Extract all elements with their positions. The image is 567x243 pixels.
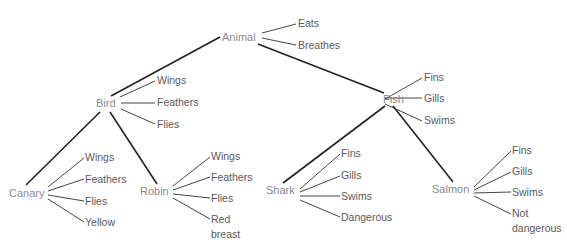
property-robin-feathers: Feathers [211, 171, 252, 183]
node-shark: Shark [266, 184, 295, 196]
property-salmon-dangerous: dangerous [512, 222, 562, 234]
property-canary-flies: Flies [85, 195, 107, 207]
node-animal: Animal [222, 31, 256, 43]
property-shark-dangerous: Dangerous [341, 211, 392, 223]
property-robin-red: Red [211, 213, 230, 225]
property-fish-gills: Gills [424, 92, 444, 104]
property-canary-wings: Wings [85, 151, 114, 163]
property-salmon-gills: Gills [512, 165, 532, 177]
property-shark-swims: Swims [341, 190, 372, 202]
node-robin: Robin [140, 185, 169, 197]
node-fish: Fish [383, 93, 404, 105]
property-canary-feathers: Feathers [85, 173, 126, 185]
property-salmon-swims: Swims [512, 186, 543, 198]
property-fish-fins: Fins [424, 71, 444, 83]
property-robin-wings: Wings [211, 150, 240, 162]
property-animal-breathes: Breathes [298, 39, 340, 51]
property-shark-gills: Gills [341, 169, 361, 181]
property-salmon-not: Not [512, 207, 528, 219]
property-animal-eats: Eats [298, 17, 319, 29]
property-canary-yellow: Yellow [85, 216, 115, 228]
property-salmon-fins: Fins [512, 144, 532, 156]
property-shark-fins: Fins [341, 147, 361, 159]
property-bird-feathers: Feathers [157, 96, 198, 108]
node-bird: Bird [96, 97, 116, 109]
property-bird-flies: Flies [157, 118, 179, 130]
node-canary: Canary [9, 187, 44, 199]
property-fish-swims: Swims [424, 114, 455, 126]
node-salmon: Salmon [432, 183, 469, 195]
property-bird-wings: Wings [157, 74, 186, 86]
property-robin-breast: breast [211, 228, 240, 240]
property-robin-flies: Flies [211, 192, 233, 204]
